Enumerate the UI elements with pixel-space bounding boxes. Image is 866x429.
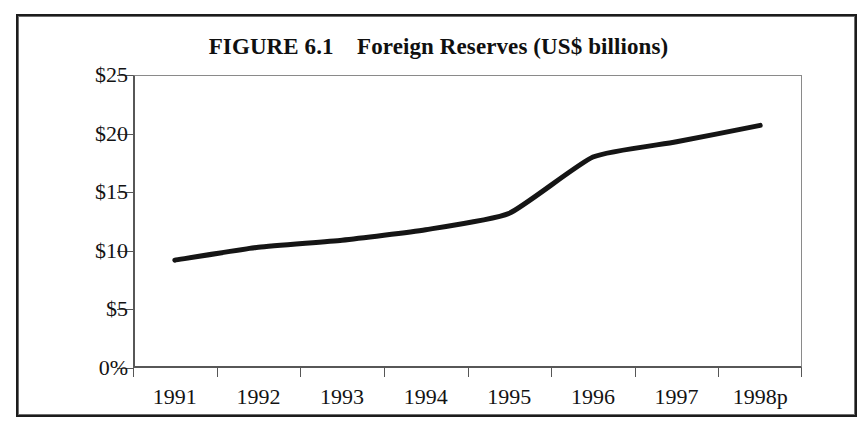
x-axis-tick (384, 368, 385, 377)
y-axis-label: $10 (8, 240, 128, 262)
x-axis-label: 1996 (551, 386, 635, 408)
x-axis-tick (635, 368, 636, 377)
x-axis-label: 1993 (300, 386, 384, 408)
x-axis-label: 1998p (718, 386, 802, 408)
figure-root: FIGURE 6.1 Foreign Reserves (US$ billion… (0, 0, 866, 429)
y-axis-label: 0% (8, 357, 128, 379)
y-axis-label: $25 (8, 64, 128, 86)
x-axis-tick (133, 368, 134, 377)
x-axis-tick (300, 368, 301, 377)
x-axis-tick (468, 368, 469, 377)
x-axis-label: 1994 (384, 386, 468, 408)
y-axis-label: $5 (8, 298, 128, 320)
x-axis-tick (718, 368, 719, 377)
x-axis-tick (551, 368, 552, 377)
series-path (175, 125, 760, 260)
figure-frame: FIGURE 6.1 Foreign Reserves (US$ billion… (16, 14, 857, 417)
x-axis-tick (217, 368, 218, 377)
y-axis-label: $20 (8, 123, 128, 145)
x-axis-tick (801, 368, 802, 377)
x-axis-label: 1997 (635, 386, 719, 408)
y-axis-label: $15 (8, 181, 128, 203)
line-series-foreign-reserves (133, 75, 802, 368)
x-axis-label: 1995 (468, 386, 552, 408)
x-axis-label: 1991 (133, 386, 217, 408)
plot-region: $25$20$15$10$50% 19911992199319941995199… (133, 75, 802, 368)
chart-title: FIGURE 6.1 Foreign Reserves (US$ billion… (18, 34, 859, 60)
x-axis-label: 1992 (217, 386, 301, 408)
